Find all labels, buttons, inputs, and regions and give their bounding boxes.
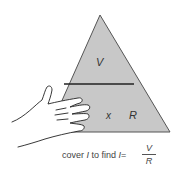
caption-equals: = [121, 150, 126, 160]
label-operator: x [105, 110, 112, 121]
caption: cover I to find I= [62, 150, 126, 160]
caption-prefix: cover [62, 150, 87, 160]
fraction-denominator: R [146, 156, 153, 166]
fraction: V R [142, 143, 156, 166]
fraction-numerator: V [146, 143, 152, 153]
fraction-bar [142, 154, 156, 155]
label-r: R [129, 109, 137, 121]
caption-middle: to find [89, 150, 119, 160]
